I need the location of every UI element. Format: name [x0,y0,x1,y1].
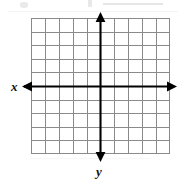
x-axis-left-arrowhead [22,82,32,92]
y-axis-up-arrowhead [96,12,106,22]
coordinate-plane-figure: x y [0,0,188,181]
y-axis-down-arrowhead [96,152,106,162]
y-axis-label: y [96,165,102,178]
axes [0,0,188,181]
x-axis-label: x [11,80,18,93]
x-axis-right-arrowhead [167,82,177,92]
